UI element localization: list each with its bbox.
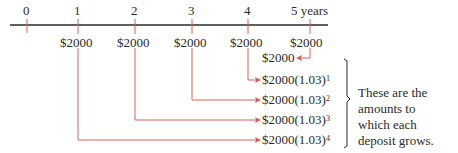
future-amount-3: $2000(1.03)3 — [262, 113, 330, 127]
deposit-2: $2000 — [117, 36, 150, 50]
deposit-5: $2000 — [290, 36, 323, 50]
arrow-year-4 — [248, 48, 256, 80]
annuity-timeline-diagram: 0 1 2 3 4 5 years $2000 $2000 $2000 $200… — [0, 0, 458, 153]
year-label-4: 4 — [244, 4, 251, 18]
arrow-year-1 — [78, 48, 256, 140]
future-amount-4: $2000(1.03)4 — [262, 133, 330, 147]
year-label-5: 5 years — [291, 4, 328, 18]
year-label-0: 0 — [23, 4, 30, 18]
deposit-1: $2000 — [60, 36, 93, 50]
future-amount-0: $2000 — [262, 51, 295, 65]
future-amount-1: $2000(1.03)1 — [262, 73, 330, 87]
year-label-3: 3 — [188, 4, 195, 18]
brace — [344, 59, 350, 148]
year-label-2: 2 — [131, 4, 138, 18]
deposit-4: $2000 — [230, 36, 263, 50]
arrow-year-2 — [135, 48, 256, 120]
future-amount-2: $2000(1.03)2 — [262, 93, 330, 107]
explanation-note: These are the amounts to which each depo… — [358, 85, 458, 149]
deposit-3: $2000 — [174, 36, 207, 50]
arrow-year-3 — [192, 48, 256, 100]
year-label-1: 1 — [74, 4, 81, 18]
